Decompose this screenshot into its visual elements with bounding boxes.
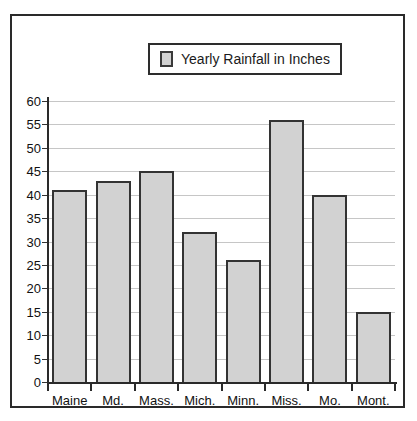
- y-axis-tick-label: 5: [34, 351, 41, 366]
- x-axis-tick-mark: [134, 384, 136, 391]
- plot-inner: 051015202530354045505560 MaineMd.Mass.Mi…: [48, 101, 395, 382]
- y-axis-tick-label: 20: [27, 281, 41, 296]
- y-axis-tick-label: 15: [27, 304, 41, 319]
- bar[interactable]: [139, 171, 174, 382]
- bar-slot: [178, 101, 221, 382]
- x-axis-tick-mark: [47, 384, 49, 391]
- x-axis-label-miss: Miss.: [265, 393, 308, 408]
- y-axis-tick-label: 25: [27, 257, 41, 272]
- x-axis-tick-mark: [351, 384, 353, 391]
- x-axis-labels: MaineMd.Mass.Mich.Minn.Miss.Mo.Mont.: [48, 393, 395, 408]
- x-axis-tick-mark: [221, 384, 223, 391]
- y-axis-tick-label: 60: [27, 94, 41, 109]
- x-axis-label-minn: Minn.: [222, 393, 265, 408]
- bar[interactable]: [226, 260, 261, 382]
- x-axis-label-md: Md.: [91, 393, 134, 408]
- bar-slot: [308, 101, 351, 382]
- bar[interactable]: [52, 190, 87, 382]
- x-axis-label-maine: Maine: [48, 393, 91, 408]
- y-axis-tick-label: 10: [27, 328, 41, 343]
- y-axis-tick-label: 35: [27, 211, 41, 226]
- plot-area: 051015202530354045505560 MaineMd.Mass.Mi…: [48, 101, 395, 382]
- x-axis-ticks: [48, 382, 395, 390]
- bar[interactable]: [182, 232, 217, 382]
- y-axis-tick-label: 55: [27, 117, 41, 132]
- bar-slot: [222, 101, 265, 382]
- bar[interactable]: [312, 195, 347, 382]
- x-axis-tick-mark: [264, 384, 266, 391]
- x-axis-tick-mark: [90, 384, 92, 391]
- x-axis-tick-mark: [394, 384, 396, 391]
- bar[interactable]: [96, 181, 131, 382]
- bar-slot: [91, 101, 134, 382]
- bar-group: [48, 101, 395, 382]
- x-axis-label-mass: Mass.: [135, 393, 178, 408]
- bar[interactable]: [356, 312, 391, 382]
- x-axis-tick-mark: [177, 384, 179, 391]
- y-axis-tick-label: 45: [27, 164, 41, 179]
- legend-label: Yearly Rainfall in Inches: [181, 52, 330, 66]
- y-axis-tick-label: 50: [27, 140, 41, 155]
- x-axis-label-mo: Mo.: [308, 393, 351, 408]
- bar-slot: [48, 101, 91, 382]
- x-axis-label-mont: Mont.: [352, 393, 395, 408]
- bar-slot: [265, 101, 308, 382]
- y-axis-tick-label: 30: [27, 234, 41, 249]
- x-axis-tick-mark: [307, 384, 309, 391]
- bar[interactable]: [269, 120, 304, 382]
- chart-frame: Yearly Rainfall in Inches 05101520253035…: [10, 14, 405, 408]
- y-axis-tick-label: 0: [34, 375, 41, 390]
- y-axis-tick-label: 40: [27, 187, 41, 202]
- bar-slot: [352, 101, 395, 382]
- x-axis-label-mich: Mich.: [178, 393, 221, 408]
- legend-swatch-icon: [160, 51, 173, 67]
- bar-slot: [135, 101, 178, 382]
- chart-legend: Yearly Rainfall in Inches: [148, 43, 342, 75]
